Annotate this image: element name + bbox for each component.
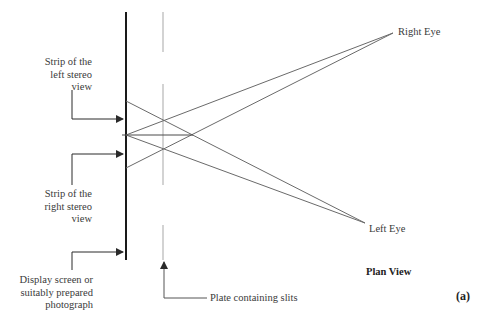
label-left-eye: Left Eye <box>369 223 405 236</box>
clipped-caption <box>10 322 470 328</box>
label-display-screen: Display screen or suitably prepared phot… <box>0 274 93 312</box>
label-right-strip: Strip of the right stereo view <box>2 188 92 226</box>
label-left-strip: Strip of the left stereo view <box>2 56 92 94</box>
diagram-title: Plan View <box>366 266 411 279</box>
panel-label: (a) <box>456 290 470 303</box>
label-arrows <box>72 90 207 298</box>
label-plate: Plate containing slits <box>210 292 298 305</box>
label-right-eye: Right Eye <box>398 26 440 39</box>
